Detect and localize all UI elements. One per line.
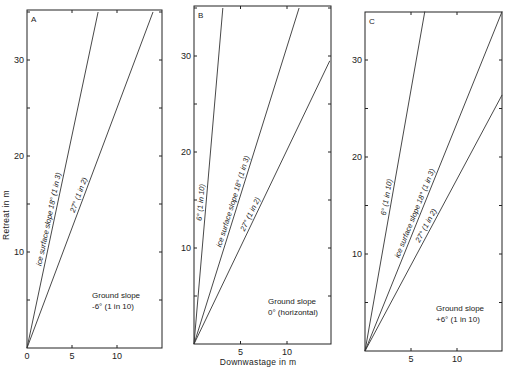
slope-line	[365, 12, 425, 352]
x-tick-label: 5	[238, 347, 243, 357]
x-tick-label: 0	[24, 351, 29, 361]
panel-label: A	[31, 15, 37, 24]
x-tick-label: 5	[69, 351, 74, 361]
ground-slope-value: -6° (1 in 10)	[92, 302, 134, 311]
y-tick-label: 30	[181, 51, 191, 61]
x-tick-label: 10	[452, 354, 462, 364]
y-axis-label: Retreat in m	[1, 190, 11, 240]
y-tick-label: 20	[352, 152, 362, 162]
panel-label: C	[369, 17, 375, 26]
figure-retreat-vs-downwastage: A1020300510ice surface slope 18° (1 in 3…	[0, 0, 508, 374]
slope-line-label: ice surface slope 18° (1 in 3)	[34, 171, 63, 266]
ground-slope-value: +6° (1 in 10)	[436, 315, 480, 324]
y-tick-label: 20	[181, 147, 191, 157]
x-tick-label: 10	[112, 351, 122, 361]
ground-slope-value: 0° (horizontal)	[268, 308, 318, 317]
ground-slope-title: Ground slope	[92, 291, 141, 300]
y-tick-label: 20	[14, 151, 24, 161]
slope-line-label: 27° (1 in 2)	[68, 176, 90, 215]
y-tick-label: 30	[14, 55, 24, 65]
panel-c: C1020305106° (1 in 10)ice surface slope …	[352, 12, 502, 365]
x-tick-label: 10	[282, 347, 292, 357]
plot-frame	[194, 6, 331, 344]
panel-b: B1020305106° (1 in 10)ice surface slope …	[181, 6, 331, 357]
ground-slope-title: Ground slope	[268, 297, 317, 306]
panel-label: B	[198, 11, 203, 20]
y-tick-label: 10	[14, 247, 24, 257]
y-tick-label: 10	[352, 249, 362, 259]
y-tick-label: 30	[352, 55, 362, 65]
x-axis-label: Downwastage in m	[220, 357, 297, 367]
y-tick-label: 10	[181, 243, 191, 253]
slope-line-label: ice surface slope 18° (1 in 3)	[214, 154, 251, 248]
slope-line	[194, 8, 299, 344]
x-tick-label: 5	[408, 354, 413, 364]
ground-slope-title: Ground slope	[436, 304, 485, 313]
panels-group: A1020300510ice surface slope 18° (1 in 3…	[14, 6, 502, 364]
panel-a: A1020300510ice surface slope 18° (1 in 3…	[14, 10, 162, 361]
